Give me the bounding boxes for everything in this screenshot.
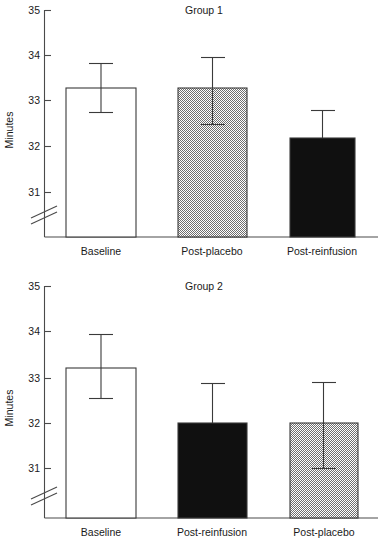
bar-group-baseline-1	[66, 63, 136, 237]
x-label-post-placebo-2: Post-placebo	[293, 526, 354, 538]
bar-group-post-placebo-2	[290, 382, 358, 518]
figure-bar-charts: 35 34 33 32 31 Minutes Group 1	[0, 0, 390, 542]
y-axis-title-2: Minutes	[3, 390, 15, 427]
chart-panel-group-1: 35 34 33 32 31 Minutes Group 1	[0, 0, 390, 271]
y-axis-title-1: Minutes	[3, 112, 15, 149]
y-tick-label-31-1: 31	[28, 186, 40, 198]
bar-post-reinfusion-2	[178, 423, 247, 518]
x-label-post-reinfusion-1: Post-reinfusion	[287, 245, 357, 257]
bar-group-baseline-2	[66, 334, 136, 518]
y-tick-label-33-1: 33	[28, 94, 40, 106]
bar-group-post-reinfusion-1	[290, 110, 355, 237]
bar-post-reinfusion-1	[290, 138, 355, 237]
chart-svg-group-1: 35 34 33 32 31 Minutes Group 1	[0, 0, 390, 271]
chart-svg-group-2: 35 34 33 32 31 Minutes Group 2	[0, 271, 390, 542]
errorbar-post-reinfusion-1	[311, 110, 335, 138]
chart-panel-group-2: 35 34 33 32 31 Minutes Group 2	[0, 271, 390, 542]
y-tick-label-32-1: 32	[28, 140, 40, 152]
bar-group-post-reinfusion-2	[178, 383, 247, 518]
errorbar-post-reinfusion-2	[201, 383, 225, 423]
chart-title-group-1: Group 1	[185, 4, 223, 16]
y-tick-label-34-2: 34	[28, 325, 40, 337]
x-label-post-placebo-1: Post-placebo	[181, 245, 242, 257]
bar-group-post-placebo-1	[178, 57, 247, 237]
y-tick-label-34-1: 34	[28, 49, 40, 61]
y-tick-label-35-2: 35	[28, 280, 40, 292]
y-tick-label-35-1: 35	[28, 4, 40, 16]
x-label-baseline-1: Baseline	[81, 245, 121, 257]
chart-title-group-2: Group 2	[185, 280, 223, 292]
x-label-baseline-2: Baseline	[81, 526, 121, 538]
y-tick-label-33-2: 33	[28, 372, 40, 384]
y-tick-label-31-2: 31	[28, 462, 40, 474]
x-label-post-reinfusion-2: Post-reinfusion	[177, 526, 247, 538]
y-tick-label-32-2: 32	[28, 417, 40, 429]
